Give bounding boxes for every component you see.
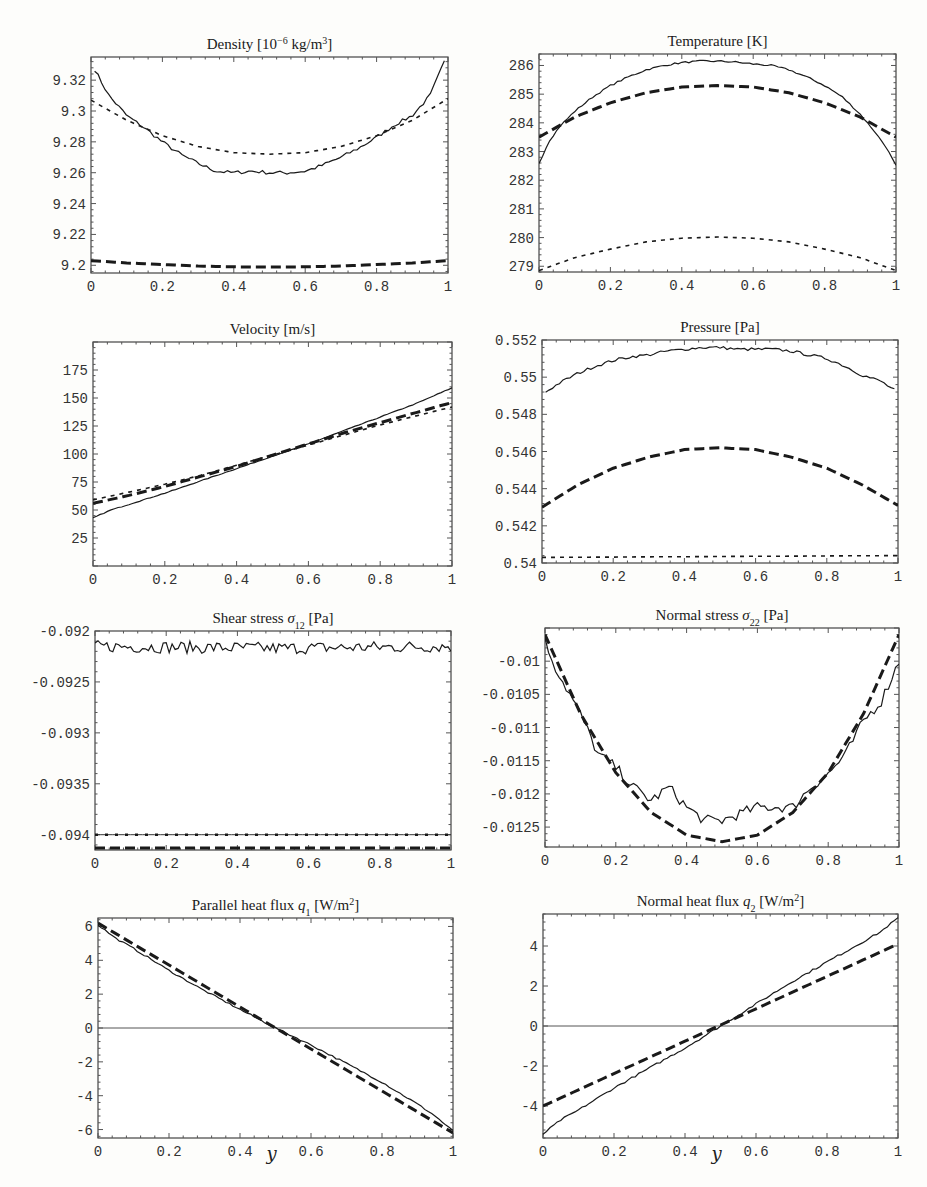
x-tick-label: 0.6: [296, 856, 321, 872]
x-tick-label: 0.2: [150, 279, 175, 295]
x-tick-label: 0.8: [367, 856, 392, 872]
chart-title: Density [10−6 kg/m3]: [207, 35, 333, 53]
y-tick-label: 9.3: [61, 104, 86, 120]
y-tick-label: 285: [509, 87, 534, 103]
y-tick-label: 0: [85, 1021, 93, 1037]
x-tick-label: 0.8: [364, 279, 389, 295]
x-tick-label: 0: [538, 569, 546, 585]
y-tick-label: 0.552: [495, 333, 537, 349]
y-tick-label: 0.542: [495, 519, 537, 535]
y-tick-label: 286: [509, 58, 534, 74]
chart-title: Pressure [Pa]: [680, 319, 760, 335]
x-tick-label: 0.6: [296, 572, 321, 588]
y-tick-label: -2: [521, 1059, 538, 1075]
x-tick-label: 1: [447, 856, 455, 872]
plot-frame: [91, 57, 448, 273]
x-tick-label: 0.6: [743, 569, 768, 585]
y-tick-label: 9.22: [52, 227, 86, 243]
y-tick-label: -0.0935: [31, 777, 90, 793]
x-tick-label: 0: [541, 853, 549, 869]
x-axis-label: y: [265, 1143, 277, 1164]
plot-frame: [542, 340, 898, 563]
x-tick-label: 0.8: [812, 278, 837, 294]
y-tick-label: 281: [509, 202, 534, 218]
x-tick-label: 1: [894, 569, 902, 585]
x-tick-label: 0.2: [156, 1144, 181, 1160]
y-tick-label: -2: [76, 1055, 93, 1071]
x-tick-label: 0.8: [368, 572, 393, 588]
x-tick-label: 0.4: [225, 856, 250, 872]
chart-velocity: Velocity [m/s]00.20.40.60.81255075100125…: [3, 314, 472, 608]
x-tick-label: 0.4: [227, 1144, 252, 1160]
y-tick-label: 0.55: [503, 370, 537, 386]
y-tick-label: 4: [530, 939, 538, 955]
x-tick-label: 0.8: [369, 1144, 394, 1160]
y-tick-label: -0.0115: [481, 754, 540, 770]
x-tick-label: 0.4: [669, 278, 694, 294]
y-tick-label: -0.093: [40, 726, 90, 742]
y-tick-label: 284: [509, 116, 534, 132]
page-header-fragment: [0, 0, 927, 6]
chart-pressure: Pressure [Pa]00.20.40.60.810.540.5420.54…: [452, 312, 918, 605]
x-tick-label: 1: [894, 1144, 902, 1160]
y-tick-label: -0.0925: [31, 675, 90, 691]
y-tick-label: 283: [509, 145, 534, 161]
x-tick-label: 0: [539, 1144, 547, 1160]
y-tick-label: -4: [521, 1099, 538, 1115]
y-tick-label: 9.24: [52, 197, 86, 213]
x-axis-label: y: [710, 1143, 722, 1164]
y-tick-label: -0.0125: [481, 820, 540, 836]
chart-normal-stress: Normal stress σ22 [Pa]00.20.40.60.81-0.0…: [455, 600, 919, 889]
x-tick-label: 0.2: [598, 278, 623, 294]
chart-shear-stress: Shear stress σ12 [Pa]00.20.40.60.81-0.09…: [5, 603, 471, 892]
y-tick-label: -0.012: [490, 787, 540, 803]
y-tick-label: -0.011: [490, 721, 540, 737]
y-tick-label: 75: [71, 475, 88, 491]
plot-frame: [95, 631, 451, 850]
y-tick-label: 0.54: [503, 556, 537, 572]
y-tick-label: 9.26: [52, 166, 86, 182]
y-tick-label: 282: [509, 173, 534, 189]
y-tick-label: 50: [71, 503, 88, 519]
y-tick-label: 9.2: [61, 258, 86, 274]
y-tick-label: 150: [63, 391, 88, 407]
x-tick-label: 1: [895, 853, 903, 869]
x-tick-label: 0.6: [298, 1144, 323, 1160]
x-tick-label: 0: [94, 1144, 102, 1160]
chart-temperature: Temperature [K]00.20.40.60.8127928028128…: [449, 26, 916, 314]
y-tick-label: -0.092: [40, 624, 90, 640]
x-tick-label: 0.8: [814, 569, 839, 585]
x-tick-label: 0.8: [814, 1144, 839, 1160]
y-tick-label: 6: [85, 919, 93, 935]
y-tick-label: -0.0105: [481, 687, 540, 703]
plot-frame: [545, 628, 899, 847]
y-tick-label: 175: [63, 363, 88, 379]
x-tick-label: 0.6: [745, 853, 770, 869]
chart-title: Shear stress σ12 [Pa]: [212, 610, 333, 631]
x-tick-label: 0.6: [293, 279, 318, 295]
x-tick-label: 0.6: [743, 1144, 768, 1160]
x-tick-label: 0: [535, 278, 543, 294]
y-tick-label: 9.32: [52, 73, 86, 89]
chart-normal-heat-flux: Normal heat flux q2 [W/m2]00.20.40.60.81…: [453, 886, 918, 1180]
x-tick-label: 0.2: [601, 1144, 626, 1160]
x-tick-label: 0: [91, 856, 99, 872]
chart-title: Normal stress σ22 [Pa]: [656, 607, 789, 628]
x-tick-label: 0.8: [816, 853, 841, 869]
y-tick-label: 100: [63, 447, 88, 463]
chart-title: Temperature [K]: [667, 33, 767, 49]
chart-title: Velocity [m/s]: [230, 321, 315, 337]
y-tick-label: 0.546: [495, 445, 537, 461]
x-tick-label: 0.4: [221, 279, 246, 295]
y-tick-label: 2: [85, 987, 93, 1003]
y-tick-label: 125: [63, 419, 88, 435]
y-tick-label: 9.28: [52, 135, 86, 151]
y-tick-label: -4: [76, 1089, 93, 1105]
chart-title: Parallel heat flux q1 [W/m2]: [192, 896, 359, 918]
y-tick-label: 25: [71, 531, 88, 547]
x-tick-label: 1: [892, 278, 900, 294]
x-tick-label: 0.6: [741, 278, 766, 294]
x-tick-label: 0.2: [603, 853, 628, 869]
y-tick-label: -6: [76, 1123, 93, 1139]
y-tick-label: 279: [509, 259, 534, 275]
